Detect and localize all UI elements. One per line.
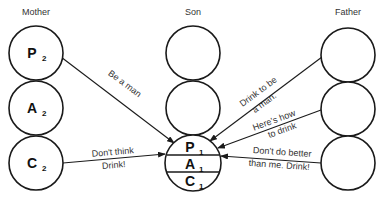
son-top-circle [166,26,220,80]
father-bottom-circle [321,136,375,190]
son-child-state: C [185,173,195,189]
label-drink: Drink! [102,159,126,171]
label-than-me-drink: than me. Drink! [248,158,310,172]
svg-text:1: 1 [199,148,204,157]
father-middle-circle [321,82,375,136]
mother-adult-state: A 2 [9,81,63,135]
svg-text:2: 2 [42,109,47,118]
mother-child-state: C 2 [9,136,63,190]
svg-text:2: 2 [42,54,47,63]
son-middle-circle [166,81,220,135]
father-top-circle [321,28,375,82]
arrow-be-a-man [61,57,174,143]
son-title: Son [185,7,201,17]
son-adult-state: A [185,156,195,172]
mother-title: Mother [22,7,50,17]
svg-text:1: 1 [199,182,204,191]
svg-text:2: 2 [42,164,47,173]
ego-state-diagram: Mother Son Father P 2 A 2 C 2 P 1 A 1 C … [0,0,386,198]
son-ego-states-circle: P 1 A 1 C 1 [165,135,221,191]
svg-text:A: A [27,100,37,116]
svg-text:C: C [27,155,37,171]
mother-parent-state: P 2 [9,26,63,80]
son-parent-state: P [185,139,194,155]
svg-text:P: P [27,45,36,61]
svg-text:1: 1 [199,165,204,174]
father-title: Father [335,7,361,17]
label-be-a-man: Be a man [106,68,143,99]
label-dont-do-better: Don't do better [253,145,312,159]
